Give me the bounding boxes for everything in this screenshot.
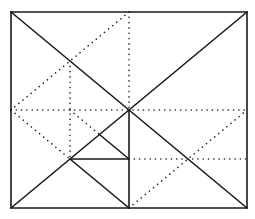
dotted-left-mid-to-p3-dotted-line bbox=[11, 110, 70, 159]
geometry-figure bbox=[0, 0, 255, 219]
lower-diagonal-line bbox=[70, 159, 129, 208]
dotted-p2-to-p4-dotted-line bbox=[70, 110, 100, 135]
small-diagonal-line bbox=[100, 135, 130, 160]
